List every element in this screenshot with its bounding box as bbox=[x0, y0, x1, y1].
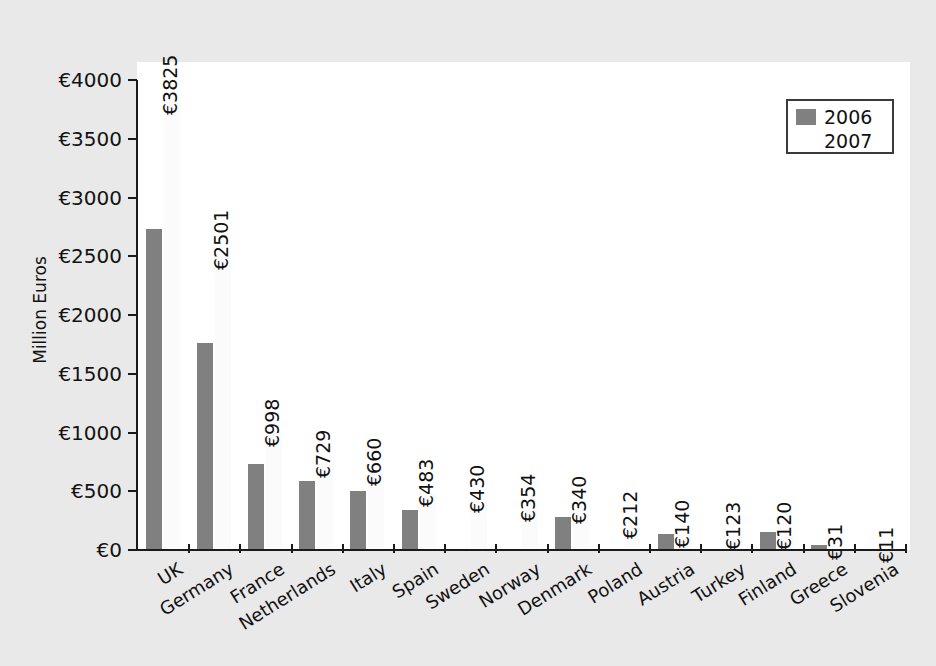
x-axis-tick bbox=[444, 544, 446, 553]
legend-label-2006: 2006 bbox=[824, 108, 872, 127]
bar-value-label: €430 bbox=[466, 465, 488, 513]
bar-2007 bbox=[266, 433, 282, 550]
bar-value-label: €140 bbox=[671, 499, 693, 547]
bar-value-label: €11 bbox=[875, 526, 897, 562]
y-axis-tick bbox=[128, 432, 137, 434]
x-axis-tick bbox=[291, 544, 293, 553]
y-axis-tick bbox=[128, 138, 137, 140]
legend-swatch-2007-icon bbox=[796, 133, 816, 149]
legend-item-2007: 2007 bbox=[796, 129, 886, 153]
bar-value-label: €120 bbox=[773, 502, 795, 550]
bar-2006 bbox=[299, 481, 315, 550]
x-axis-tick bbox=[905, 544, 907, 553]
bar-value-label: €998 bbox=[261, 398, 283, 446]
y-axis-tick-labels: €0€500€1000€1500€2000€2500€3000€3500€400… bbox=[0, 0, 122, 666]
legend-swatch-2006-icon bbox=[796, 109, 816, 125]
y-axis-tick-label: €3000 bbox=[0, 186, 122, 210]
y-axis-tick bbox=[128, 255, 137, 257]
bar-value-label: €340 bbox=[568, 476, 590, 524]
x-axis-tick bbox=[598, 544, 600, 553]
bar-value-label: €354 bbox=[517, 474, 539, 522]
y-axis-tick bbox=[128, 314, 137, 316]
bar-2007 bbox=[164, 101, 180, 550]
x-axis-tick bbox=[547, 544, 549, 553]
y-axis-tick-label: €1000 bbox=[0, 421, 122, 445]
x-axis-tick bbox=[188, 544, 190, 553]
bar-value-label: €212 bbox=[619, 491, 641, 539]
bar-2006 bbox=[146, 229, 162, 550]
x-axis-tick bbox=[342, 544, 344, 553]
y-axis-tick bbox=[128, 549, 137, 551]
bar-2007 bbox=[215, 256, 231, 550]
bar-value-label: €729 bbox=[312, 430, 334, 478]
bar-value-label: €660 bbox=[363, 438, 385, 486]
x-axis-tick bbox=[751, 544, 753, 553]
y-axis-title: Million Euros bbox=[30, 200, 50, 420]
y-axis-tick-label: €500 bbox=[0, 479, 122, 503]
y-axis-tick-label: €0 bbox=[0, 538, 122, 562]
y-axis-tick-label: €4000 bbox=[0, 68, 122, 92]
x-axis-tick bbox=[803, 544, 805, 553]
bar-2006 bbox=[402, 510, 418, 550]
y-axis-tick bbox=[128, 197, 137, 199]
x-axis-tick bbox=[854, 544, 856, 553]
bar-value-label: €3825 bbox=[159, 54, 181, 114]
bar-value-label: €31 bbox=[824, 524, 846, 560]
y-axis-tick bbox=[128, 373, 137, 375]
y-axis-tick-label: €3500 bbox=[0, 127, 122, 151]
x-axis-tick bbox=[495, 544, 497, 553]
legend-item-2006: 2006 bbox=[796, 105, 886, 129]
x-axis-tick bbox=[239, 544, 241, 553]
y-axis-tick-label: €1500 bbox=[0, 362, 122, 386]
bar-chart-figure: €0€500€1000€1500€2000€2500€3000€3500€400… bbox=[0, 0, 936, 666]
bar-value-label: €123 bbox=[722, 501, 744, 549]
x-axis-tick bbox=[700, 544, 702, 553]
x-axis-tick bbox=[649, 544, 651, 553]
y-axis-tick-label: €2000 bbox=[0, 303, 122, 327]
x-axis-tick bbox=[393, 544, 395, 553]
legend-label-2007: 2007 bbox=[824, 132, 872, 151]
bar-2006 bbox=[350, 491, 366, 550]
bar-value-label: €2501 bbox=[210, 210, 232, 270]
y-axis-tick-label: €2500 bbox=[0, 244, 122, 268]
bar-2006 bbox=[197, 343, 213, 550]
y-axis-tick bbox=[128, 490, 137, 492]
y-axis-tick bbox=[128, 79, 137, 81]
bar-value-label: €483 bbox=[415, 459, 437, 507]
legend: 2006 2007 bbox=[786, 99, 894, 154]
bar-2006 bbox=[248, 464, 264, 550]
